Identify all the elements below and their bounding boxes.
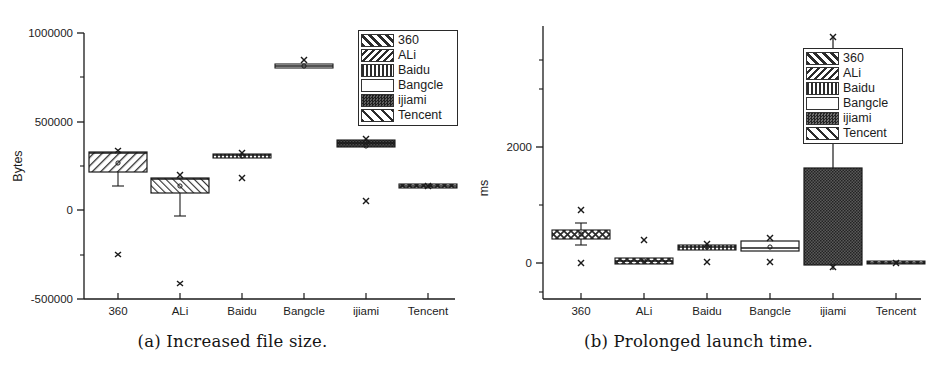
x-tick-label: Baidu [692, 305, 721, 317]
box-Bangcle-b [741, 235, 799, 265]
legend-row-Bangcle: Bangcle [806, 96, 900, 111]
box-Tencent-b [867, 260, 925, 266]
legend-label-360: 360 [843, 52, 864, 65]
legend-label-360: 360 [398, 34, 419, 47]
x-tick-label: 360 [108, 305, 127, 317]
x-tick-label: Tencent [408, 305, 449, 317]
outlier-point [704, 259, 710, 265]
legend-row-360: 360 [361, 33, 455, 48]
legend-label-ALi: ALi [398, 49, 416, 62]
x-tick-label: Tencent [876, 305, 917, 317]
legend-row-Tencent: Tencent [361, 108, 455, 123]
legend-swatch-360-icon [361, 34, 394, 47]
x-tick-label: ijiami [820, 305, 846, 317]
outlier-point [767, 259, 773, 265]
x-tick-label: ALi [636, 305, 653, 317]
legend-swatch-Tencent-icon [361, 109, 394, 122]
x-ticks-b: 360 ALi Baidu Bangcle ijiami Tencent [571, 293, 917, 317]
y-axis-title-a: Bytes [11, 150, 25, 181]
caption-a: (a) Increased file size. [0, 332, 465, 351]
legend-label-ijiami: ijiami [843, 112, 871, 125]
legend-row-Baidu: Baidu [361, 63, 455, 78]
outlier-point [177, 281, 183, 286]
x-ticks-a: 360 ALi Baidu Bangcle ijiami Tencent [108, 293, 449, 317]
legend-b: 360 ALi Baidu Bangcle ijiami Tencent [803, 48, 903, 144]
x-tick-label: Bangcle [283, 305, 325, 317]
legend-row-Tencent: Tencent [806, 126, 900, 141]
outlier-point [641, 237, 647, 243]
legend-swatch-360-icon [806, 52, 839, 65]
outlier-point [578, 260, 584, 266]
box-ALi-b [615, 237, 673, 264]
legend-swatch-Tencent-icon [806, 127, 839, 140]
legend-label-Baidu: Baidu [398, 64, 430, 77]
y-tick-label: 0 [526, 257, 532, 269]
legend-swatch-ALi-icon [806, 67, 839, 80]
legend-label-Bangcle: Bangcle [398, 79, 443, 92]
legend-a: 360 ALi Baidu Bangcle ijiami Tencent [358, 30, 458, 126]
legend-swatch-ijiami-icon [361, 94, 394, 107]
outlier-point [115, 252, 121, 257]
y-ticks-b: 2000 0 [506, 60, 543, 292]
outlier-point [578, 207, 584, 213]
y-tick-label: -500000 [31, 293, 73, 305]
box-Tencent-a [399, 183, 457, 189]
y-tick-label: 0 [67, 204, 73, 216]
legend-row-Bangcle: Bangcle [361, 78, 455, 93]
legend-row-ijiami: ijiami [806, 111, 900, 126]
x-tick-label: ALi [172, 305, 189, 317]
legend-row-Baidu: Baidu [806, 81, 900, 96]
y-tick-label: 2000 [506, 141, 532, 153]
box-ijiami-a [337, 136, 395, 204]
x-tick-label: ijiami [353, 305, 379, 317]
y-tick-label: 1000000 [28, 27, 73, 39]
legend-row-ALi: ALi [806, 66, 900, 81]
legend-swatch-Bangcle-icon [806, 97, 839, 110]
y-ticks-a: 1000000 500000 0 -500000 [28, 27, 84, 305]
x-tick-label: 360 [571, 305, 590, 317]
legend-label-ALi: ALi [843, 67, 861, 80]
subfigure-b: 2000 0 ms 360 ALi Baidu Bangcle [466, 0, 931, 387]
legend-label-Tencent: Tencent [398, 109, 442, 122]
legend-swatch-ALi-icon [361, 49, 394, 62]
box-Bangcle-a [275, 57, 333, 68]
legend-row-ALi: ALi [361, 48, 455, 63]
x-tick-label: Bangcle [749, 305, 791, 317]
legend-row-360: 360 [806, 51, 900, 66]
outlier-point [363, 198, 369, 204]
legend-label-Tencent: Tencent [843, 127, 887, 140]
box-360-b [552, 207, 610, 266]
legend-swatch-Bangcle-icon [361, 79, 394, 92]
x-tick-label: Baidu [227, 305, 256, 317]
box-ALi-a [151, 172, 209, 286]
legend-label-Bangcle: Bangcle [843, 97, 888, 110]
box-360-a [89, 148, 147, 257]
subfigure-a: 1000000 500000 0 -500000 Bytes 360 ALi [0, 0, 465, 387]
y-axis-title-b: ms [477, 180, 491, 197]
legend-label-ijiami: ijiami [398, 94, 426, 107]
caption-b: (b) Prolonged launch time. [466, 332, 931, 351]
legend-label-Baidu: Baidu [843, 82, 875, 95]
y-tick-label: 500000 [35, 116, 73, 128]
box-Baidu-b [678, 241, 736, 265]
outlier-point [239, 175, 245, 181]
legend-swatch-ijiami-icon [806, 112, 839, 125]
box-Baidu-a [213, 150, 271, 181]
legend-swatch-Baidu-icon [361, 64, 394, 77]
figure-row: 1000000 500000 0 -500000 Bytes 360 ALi [0, 0, 931, 387]
legend-row-ijiami: ijiami [361, 93, 455, 108]
legend-swatch-Baidu-icon [806, 82, 839, 95]
